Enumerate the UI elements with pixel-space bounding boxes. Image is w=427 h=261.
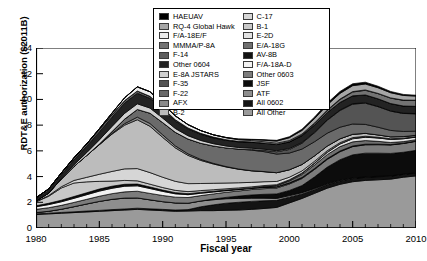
legend-item-label: B-2 (173, 108, 185, 118)
legend-column-left: HAEUAVRQ-4 Global HawkF/A-18E/FMMMA/P-8A… (159, 12, 235, 118)
legend-swatch-icon (243, 61, 253, 68)
legend-item[interactable]: E-8A JSTARS (159, 70, 235, 80)
legend-item[interactable]: B-2 (159, 108, 235, 118)
legend-item-label: AFX (173, 98, 187, 108)
legend-swatch-icon (159, 80, 169, 87)
legend-swatch-icon (243, 100, 253, 107)
chart-legend: HAEUAVRQ-4 Global HawkF/A-18E/FMMMA/P-8A… (153, 8, 330, 110)
legend-swatch-icon (159, 23, 169, 30)
legend-item[interactable]: RQ-4 Global Hawk (159, 22, 235, 32)
y-tick-label: 2 (6, 198, 32, 208)
legend-item[interactable]: F/A-18E/F (159, 31, 235, 41)
legend-swatch-icon (159, 13, 169, 20)
legend-item-label: F-14 (173, 50, 188, 60)
legend-item-label: MMMA/P-8A (173, 41, 215, 51)
legend-item-label: All Other (257, 108, 286, 118)
y-axis-ticks: 02468101214 (0, 0, 32, 261)
y-tick-label: 4 (6, 172, 32, 182)
legend-item[interactable]: Other 0604 (159, 60, 235, 70)
legend-item[interactable]: B-1 (243, 22, 294, 32)
legend-item-label: HAEUAV (173, 12, 203, 22)
legend-swatch-icon (159, 100, 169, 107)
legend-item[interactable]: E/A-18G (243, 41, 294, 51)
legend-item-label: F-35 (173, 79, 188, 89)
legend-item[interactable]: AV-8B (243, 50, 294, 60)
legend-swatch-icon (159, 42, 169, 49)
legend-item[interactable]: MMMA/P-8A (159, 41, 235, 51)
legend-swatch-icon (243, 71, 253, 78)
x-axis-title: Fiscal year (36, 243, 416, 254)
legend-item-label: RQ-4 Global Hawk (173, 22, 235, 32)
legend-item-label: C-17 (257, 12, 273, 22)
legend-item[interactable]: JSF (243, 79, 294, 89)
y-tick-label: 6 (6, 146, 32, 156)
y-tick-label: 14 (6, 43, 32, 53)
legend-item[interactable]: All 0602 (243, 98, 294, 108)
legend-column-right: C-17B-1E-2DE/A-18GAV-8BF/A-18A-DOther 06… (243, 12, 294, 118)
legend-swatch-icon (243, 90, 253, 97)
legend-swatch-icon (243, 13, 253, 20)
legend-item[interactable]: F/A-18A-D (243, 60, 294, 70)
legend-item-label: F/A-18A-D (257, 60, 292, 70)
legend-swatch-icon (159, 71, 169, 78)
legend-item-label: E/A-18G (257, 41, 285, 51)
legend-item-label: AV-8B (257, 50, 277, 60)
legend-item-label: All 0602 (257, 98, 284, 108)
legend-item-label: Other 0603 (257, 70, 294, 80)
legend-item[interactable]: All Other (243, 108, 294, 118)
legend-swatch-icon (159, 90, 169, 97)
legend-swatch-icon (159, 32, 169, 39)
legend-swatch-icon (243, 23, 253, 30)
legend-item[interactable]: F-22 (159, 89, 235, 99)
legend-swatch-icon (243, 80, 253, 87)
legend-item[interactable]: HAEUAV (159, 12, 235, 22)
y-tick-label: 10 (6, 95, 32, 105)
legend-item-label: F/A-18E/F (173, 31, 207, 41)
legend-item-label: E-8A JSTARS (173, 70, 219, 80)
legend-swatch-icon (243, 109, 253, 116)
legend-item[interactable]: Other 0603 (243, 70, 294, 80)
legend-swatch-icon (243, 32, 253, 39)
legend-item[interactable]: F-14 (159, 50, 235, 60)
y-tick-label: 8 (6, 120, 32, 130)
legend-item-label: B-1 (257, 22, 269, 32)
legend-swatch-icon (243, 42, 253, 49)
legend-swatch-icon (159, 52, 169, 59)
legend-item[interactable]: ATF (243, 89, 294, 99)
legend-swatch-icon (159, 61, 169, 68)
legend-item-label: F-22 (173, 89, 188, 99)
legend-item[interactable]: AFX (159, 98, 235, 108)
legend-item-label: ATF (257, 89, 270, 99)
y-tick-label: 12 (6, 69, 32, 79)
legend-item[interactable]: F-35 (159, 79, 235, 89)
legend-item[interactable]: E-2D (243, 31, 294, 41)
legend-item[interactable]: C-17 (243, 12, 294, 22)
legend-swatch-icon (159, 109, 169, 116)
legend-item-label: E-2D (257, 31, 274, 41)
legend-item-label: JSF (257, 79, 270, 89)
legend-item-label: Other 0604 (173, 60, 210, 70)
legend-swatch-icon (243, 52, 253, 59)
